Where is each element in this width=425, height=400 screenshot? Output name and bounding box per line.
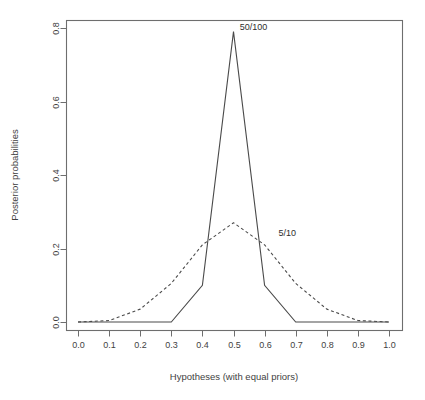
y-axis-title: Posterior probabilities: [9, 129, 20, 221]
x-tick-label: 1.0: [383, 340, 396, 350]
y-tick-label: 0.8: [51, 22, 61, 35]
x-tick-label: 0.4: [196, 340, 209, 350]
x-axis-title: Hypotheses (with equal priors): [170, 371, 298, 382]
series-annotation-50-100: 50/100: [240, 22, 268, 32]
x-tick-label: 0.8: [321, 340, 334, 350]
chart-canvas: 0.00.10.20.30.40.50.60.70.80.91.0 0.00.2…: [0, 0, 425, 400]
y-tick-label: 0.0: [51, 316, 61, 329]
x-tick-label: 0.7: [290, 340, 303, 350]
y-tick-label: 0.6: [51, 96, 61, 109]
x-tick-label: 0.0: [72, 340, 85, 350]
y-tick-label: 0.2: [51, 243, 61, 256]
x-tick-label: 0.9: [352, 340, 365, 350]
x-tick-label: 0.3: [165, 340, 178, 350]
x-tick-label: 0.6: [259, 340, 272, 350]
x-tick-label: 0.2: [134, 340, 147, 350]
posterior-probabilities-chart: 0.00.10.20.30.40.50.60.70.80.91.0 0.00.2…: [0, 0, 425, 400]
y-tick-label: 0.4: [51, 169, 61, 182]
x-tick-label: 0.5: [228, 340, 241, 350]
x-tick-label: 0.1: [103, 340, 116, 350]
series-annotation-5-10: 5/10: [279, 228, 297, 238]
